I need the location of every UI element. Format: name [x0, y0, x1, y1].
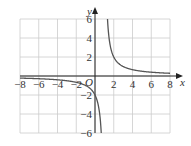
x-tick-label: 4	[130, 78, 136, 90]
x-tick-label: −4	[52, 78, 64, 90]
x-axis-label: x	[179, 76, 185, 88]
origin-label: O	[85, 76, 93, 88]
x-tick-label: −6	[33, 78, 45, 90]
x-tick-label: −8	[14, 78, 26, 90]
function-graph: −8−6−4−22468642−2−4−6xyO	[0, 0, 191, 146]
x-tick-label: 2	[111, 78, 117, 90]
y-axis-arrow-icon	[92, 7, 98, 14]
y-tick-label: −4	[80, 108, 92, 120]
y-tick-label: 4	[87, 32, 93, 44]
y-tick-label: 2	[87, 51, 93, 63]
y-tick-label: −6	[80, 127, 92, 139]
x-tick-label: 6	[149, 78, 155, 90]
x-tick-label: 8	[167, 78, 173, 90]
y-tick-label: −2	[80, 89, 92, 101]
curve-right-branch	[108, 19, 171, 73]
y-axis-label: y	[86, 5, 92, 17]
